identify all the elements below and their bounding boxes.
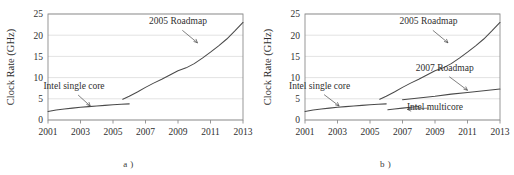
chart-b-canvas: 05101520252001200320052007200920112013Cl… (257, 0, 514, 150)
series-line-2005-roadmap (123, 22, 243, 99)
chart-panel-b: 05101520252001200320052007200920112013Cl… (257, 0, 514, 175)
x-tick-label-2011: 2011 (458, 127, 477, 137)
annotation-arrow-intel-single-core (324, 95, 339, 106)
panel-a-caption: a ) (0, 159, 257, 169)
y-tick-label-15: 15 (291, 52, 301, 62)
annotation-arrow-2005-roadmap (182, 30, 197, 43)
panel-b-caption: b ) (257, 159, 514, 169)
y-tick-label-20: 20 (291, 31, 301, 41)
plot-frame (48, 14, 243, 120)
annotation-label-intel-multicore: Intel multicore (407, 102, 463, 112)
annotation-arrow-intel-single-core (78, 95, 90, 106)
chart-a-canvas: 05101520252001200320052007200920112013Cl… (0, 0, 257, 150)
x-tick-label-2005: 2005 (361, 127, 380, 137)
y-tick-label-0: 0 (38, 115, 43, 125)
annotation-label-2005-roadmap: 2005 Roadmap (400, 16, 458, 26)
y-axis-title: Clock Rate (GHz) (5, 28, 17, 105)
y-tick-label-0: 0 (295, 115, 300, 125)
series-line-2007-roadmap (403, 89, 501, 100)
chart-panel-a: 05101520252001200320052007200920112013Cl… (0, 0, 257, 175)
x-tick-label-2013: 2013 (234, 127, 253, 137)
annotation-label-2005-roadmap: 2005 Roadmap (149, 16, 207, 26)
annotation-label-intel-single-core: Intel single core (289, 81, 350, 91)
x-tick-label-2001: 2001 (39, 127, 58, 137)
x-tick-label-2009: 2009 (169, 127, 188, 137)
figure-clock-rate-roadmaps: 05101520252001200320052007200920112013Cl… (0, 0, 514, 175)
arrow-shaft (449, 77, 467, 91)
x-tick-label-2009: 2009 (426, 127, 445, 137)
y-tick-label-10: 10 (34, 73, 44, 83)
x-tick-label-2005: 2005 (104, 127, 123, 137)
y-tick-label-20: 20 (34, 31, 44, 41)
x-tick-label-2007: 2007 (136, 127, 155, 137)
series-line-2005-roadmap (380, 22, 500, 99)
x-tick-label-2003: 2003 (71, 127, 90, 137)
annotation-label-intel-single-core: Intel single core (43, 81, 104, 91)
annotation-arrow-2007-roadmap (449, 77, 467, 91)
y-tick-label-25: 25 (34, 9, 44, 19)
annotation-label-2007-roadmap: 2007 Roadmap (416, 63, 474, 73)
y-tick-label-5: 5 (295, 94, 300, 104)
arrow-shaft (433, 30, 448, 43)
annotation-arrow-2005-roadmap (433, 30, 448, 43)
x-tick-label-2013: 2013 (491, 127, 510, 137)
series-line-intel-single-core (305, 104, 386, 112)
x-tick-label-2011: 2011 (201, 127, 220, 137)
arrow-shaft (324, 95, 339, 106)
y-tick-label-25: 25 (291, 9, 301, 19)
y-tick-label-5: 5 (38, 94, 43, 104)
arrow-shaft (78, 95, 90, 106)
y-tick-label-15: 15 (34, 52, 44, 62)
x-tick-label-2001: 2001 (296, 127, 315, 137)
arrow-shaft (182, 30, 197, 43)
x-tick-label-2003: 2003 (328, 127, 347, 137)
y-axis-title: Clock Rate (GHz) (262, 28, 274, 105)
x-tick-label-2007: 2007 (393, 127, 412, 137)
